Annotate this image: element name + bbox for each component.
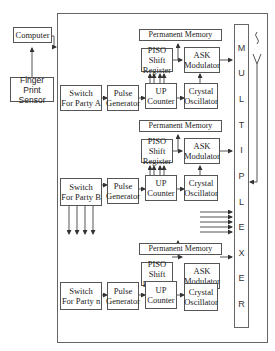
ask-modulator-b: ASKModulator xyxy=(184,138,220,164)
crystal-oscillator-a: CrystalOscillator xyxy=(184,83,218,109)
pulse-label-2: Generator xyxy=(106,98,140,108)
mux-letter: P xyxy=(238,171,244,181)
mux-letter: I xyxy=(240,145,243,155)
mux-letter: L xyxy=(239,94,244,104)
mux-letter: U xyxy=(238,68,245,78)
crystal-label-2: Oscillator xyxy=(184,96,218,106)
pulse-label-2: Generator xyxy=(106,296,140,306)
permanent-memory-a: Permanent Memory xyxy=(139,29,222,41)
pulse-label-1: Pulse xyxy=(106,88,140,98)
switch-party-b: SwitchFor Party B xyxy=(60,178,102,206)
piso-label-1: PISO Shift xyxy=(142,136,172,156)
switch-label-1: Switch xyxy=(61,182,101,192)
piso-label-1: PISO Shift xyxy=(142,259,172,279)
fingerprint-sensor-block: Finger Print Sensor xyxy=(10,77,54,102)
fingerprint-label-1: Finger Print xyxy=(11,75,53,95)
pulse-generator-b: PulseGenerator xyxy=(107,178,139,204)
mux-letter: E xyxy=(238,273,244,283)
mux-letter: T xyxy=(239,120,245,130)
ask-label-1: ASK xyxy=(184,50,220,60)
ask-label-1: ASK xyxy=(184,266,220,276)
crystal-label-1: Crystal xyxy=(184,178,218,188)
piso-shift-register-a: PISO ShiftRegister xyxy=(141,48,173,72)
up-counter-label-1: UP xyxy=(147,178,174,188)
pulse-label-1: Pulse xyxy=(106,181,140,191)
switch-label-2: For Party B xyxy=(61,192,101,202)
up-counter-b: UPCounter xyxy=(145,175,177,201)
fingerprint-label-2: Sensor xyxy=(11,95,53,105)
crystal-label-1: Crystal xyxy=(184,287,218,297)
ask-modulator-a: ASKModulator xyxy=(184,47,220,73)
computer-label: Computer xyxy=(16,30,50,40)
pulse-generator-n: PulseGenerator xyxy=(107,282,139,310)
permanent-memory-label: Permanent Memory xyxy=(149,30,213,40)
piso-label-1: PISO Shift xyxy=(142,45,172,65)
crystal-label-2: Oscillator xyxy=(184,297,218,307)
up-counter-label-2: Counter xyxy=(147,96,174,106)
pulse-label-1: Pulse xyxy=(106,286,140,296)
piso-label-2: Register xyxy=(142,65,172,75)
ask-label-2: Modulator xyxy=(184,60,220,70)
up-counter-n: UPCounter xyxy=(145,281,177,309)
permanent-memory-label: Permanent Memory xyxy=(149,244,213,254)
crystal-oscillator-b: CrystalOscillator xyxy=(184,175,218,201)
pulse-generator-a: PulseGenerator xyxy=(107,85,139,111)
switch-label-2: For Party A xyxy=(61,98,101,108)
mux-letter: E xyxy=(238,222,244,232)
multiplexer-block: M U L T I P L E X E R xyxy=(234,24,249,328)
switch-label-1: Switch xyxy=(61,88,101,98)
ask-label-1: ASK xyxy=(184,141,220,151)
crystal-oscillator-n: CrystalOscillator xyxy=(184,283,218,311)
computer-block: Computer xyxy=(13,27,52,43)
switch-label-2: For Party n xyxy=(62,296,100,306)
up-counter-a: UPCounter xyxy=(145,83,177,109)
switch-party-a: SwitchFor Party A xyxy=(60,85,102,111)
mux-letter: L xyxy=(239,197,244,207)
pulse-label-2: Generator xyxy=(106,191,140,201)
switch-label-1: Switch xyxy=(62,286,100,296)
ask-label-2: Modulator xyxy=(184,151,220,161)
switch-party-n: SwitchFor Party n xyxy=(60,282,102,310)
mux-letter: R xyxy=(238,299,245,309)
mux-letter: M xyxy=(238,43,246,53)
up-counter-label-2: Counter xyxy=(147,188,174,198)
piso-label-2: Register xyxy=(142,156,172,166)
up-counter-label-1: UP xyxy=(147,285,174,295)
permanent-memory-b: Permanent Memory xyxy=(139,120,222,132)
mux-letter: X xyxy=(238,248,244,258)
permanent-memory-n: Permanent Memory xyxy=(139,243,222,255)
up-counter-label-1: UP xyxy=(147,86,174,96)
crystal-label-1: Crystal xyxy=(184,86,218,96)
crystal-label-2: Oscillator xyxy=(184,188,218,198)
up-counter-label-2: Counter xyxy=(147,295,174,305)
permanent-memory-label: Permanent Memory xyxy=(149,121,213,131)
piso-shift-register-b: PISO ShiftRegister xyxy=(141,139,173,163)
